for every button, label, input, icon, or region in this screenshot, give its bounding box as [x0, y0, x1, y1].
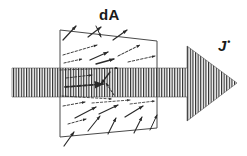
- current-density-arrow-body: [12, 46, 237, 121]
- current-density-symbol: J: [218, 37, 226, 54]
- big-current-density-arrow: [12, 46, 237, 121]
- dA-label: dA: [99, 7, 120, 22]
- current-density-vector-dot: •: [227, 38, 230, 47]
- current-density-figure: dA J•: [0, 0, 247, 156]
- figure-canvas: [0, 0, 247, 156]
- current-density-label: J•: [218, 38, 231, 53]
